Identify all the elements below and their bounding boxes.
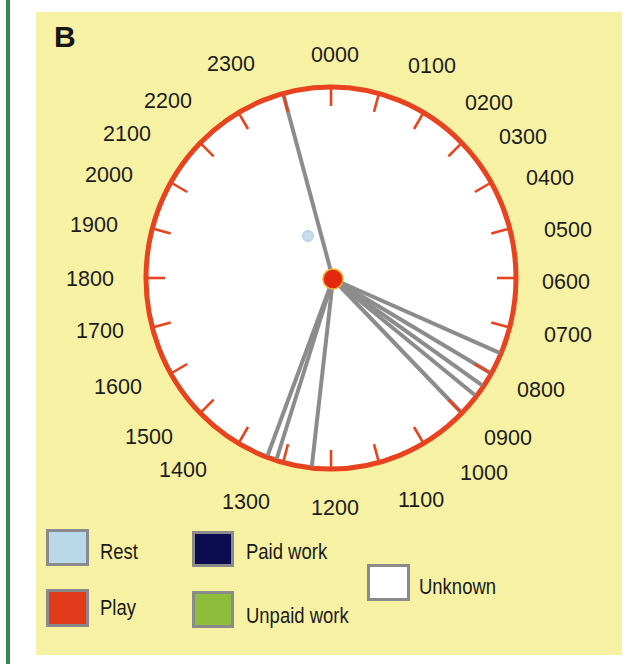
hour-label-0000: 0000 xyxy=(311,43,359,67)
hour-label-0200: 0200 xyxy=(465,91,513,115)
hour-label-2200: 2200 xyxy=(144,89,192,113)
clock-chart: 0000 0100 0200 0300 0400 0500 0600 0700 … xyxy=(0,0,641,664)
legend-swatch-play xyxy=(46,589,89,627)
hour-label-2000: 2000 xyxy=(85,163,133,187)
legend-swatch-rest xyxy=(46,529,89,566)
legend-label-unknown: Unknown xyxy=(419,575,496,599)
center-play-marker xyxy=(323,269,343,289)
hour-label-1700: 1700 xyxy=(76,319,124,343)
hour-label-1400: 1400 xyxy=(159,458,207,482)
hour-label-1500: 1500 xyxy=(125,425,173,449)
hour-label-0400: 0400 xyxy=(526,166,574,190)
hour-label-1100: 1100 xyxy=(398,488,444,512)
hour-label-1300: 1300 xyxy=(222,490,270,514)
hour-label-0700: 0700 xyxy=(544,323,592,347)
hour-label-0600: 0600 xyxy=(542,270,590,294)
hour-label-0900: 0900 xyxy=(484,426,532,450)
hour-label-0100: 0100 xyxy=(408,54,456,78)
hour-label-1800: 1800 xyxy=(66,267,114,291)
hour-label-2100: 2100 xyxy=(103,122,151,146)
hour-label-1200: 1200 xyxy=(311,496,359,520)
legend-swatch-unknown xyxy=(367,564,410,601)
legend-label-paid-work: Paid work xyxy=(246,540,327,564)
hour-label-0300: 0300 xyxy=(499,125,547,149)
hour-label-0800: 0800 xyxy=(517,378,565,402)
hour-label-2300: 2300 xyxy=(207,52,255,76)
hour-label-0500: 0500 xyxy=(544,218,592,242)
legend-swatch-unpaid-work xyxy=(192,591,234,628)
legend-label-unpaid-work: Unpaid work xyxy=(246,604,349,628)
hour-label-1000: 1000 xyxy=(460,461,508,485)
hour-label-1900: 1900 xyxy=(70,213,118,237)
rest-marker xyxy=(303,231,314,242)
legend-label-play: Play xyxy=(100,596,136,620)
legend-label-rest: Rest xyxy=(100,540,138,564)
legend-swatch-paid-work xyxy=(192,531,234,567)
hour-label-1600: 1600 xyxy=(94,375,142,399)
